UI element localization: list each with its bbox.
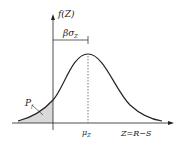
failure-label: Pf	[24, 98, 34, 110]
pdf-curve	[18, 54, 162, 121]
x-axis-arrow-icon	[168, 121, 174, 125]
x-axis-label: Z=R−S	[120, 129, 152, 138]
y-axis-arrow-icon	[51, 14, 55, 20]
bracket-label: βσZ	[62, 28, 78, 39]
mean-label: μZ	[82, 128, 91, 138]
reliability-diagram: f(Z) βσZ μZ Pf Z=R−S	[0, 0, 180, 147]
diagram-canvas: f(Z) βσZ μZ Pf Z=R−S	[0, 0, 180, 147]
y-axis-label: f(Z)	[57, 9, 75, 19]
